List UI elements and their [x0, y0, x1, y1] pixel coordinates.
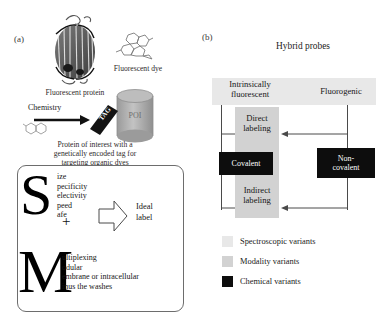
covalent-box: Covalent	[219, 152, 273, 175]
legend-swatch-chemical	[222, 276, 233, 287]
panel-a-label: (a)	[14, 34, 24, 44]
acronym-m-item-0: ultiplexing	[62, 253, 139, 263]
non-covalent-line-2: covalent	[332, 163, 359, 172]
intrinsically-fluorescent-label: Intrinsically fluorescent	[214, 79, 286, 99]
acronym-s-item-1: pecificity	[57, 182, 87, 192]
ideal-label-line-2: label	[136, 213, 153, 224]
direct-labeling-line-2: labeling	[230, 123, 284, 133]
ideal-label-line-1: Ideal	[136, 202, 153, 213]
poi-caption-line-1: Protein of interest with a	[14, 140, 176, 149]
legend-swatch-modality	[222, 256, 233, 267]
fluorescent-dye-caption: Fluorescent dye	[96, 64, 180, 73]
ideal-label-text: Ideal label	[136, 202, 153, 223]
direct-labeling-line-1: Direct	[230, 113, 284, 123]
non-covalent-label: Non- covalent	[332, 154, 359, 173]
acronym-s-item-2: electivity	[57, 191, 87, 201]
legend-item-spectroscopic: Spectroscopic variants	[222, 236, 316, 247]
legend-item-modality: Modality variants	[222, 256, 299, 267]
non-covalent-box: Non- covalent	[317, 148, 375, 178]
acronym-letter-s: S	[20, 166, 52, 224]
intrinsically-fluorescent-line-1: Intrinsically	[214, 79, 286, 89]
non-covalent-line-1: Non-	[332, 154, 359, 163]
fluorescent-dye-structure-icon	[112, 32, 156, 62]
plus-sign: +	[62, 213, 70, 230]
fluorescent-protein-structure-image	[44, 12, 106, 86]
acronym-m-item-3: inus the washes	[62, 282, 139, 292]
legend-label-chemical: Chemical variants	[240, 277, 301, 286]
indirect-labeling-line-1: Indirect	[228, 185, 286, 195]
chemistry-arrow-icon	[22, 110, 92, 136]
intrinsically-fluorescent-line-2: fluorescent	[214, 89, 286, 99]
acronym-s-item-0: ize	[57, 172, 87, 182]
covalent-label: Covalent	[232, 159, 261, 168]
legend-label-spectroscopic: Spectroscopic variants	[240, 237, 316, 246]
acronym-m-list: ultiplexing odular embrane or intracellu…	[62, 253, 139, 291]
indirect-labeling-line-2: labeling	[228, 195, 286, 205]
indirect-labeling-label: Indirect labeling	[228, 185, 286, 205]
direct-labeling-label: Direct labeling	[230, 113, 284, 133]
acronym-m-item-2: embrane or intracellular	[62, 272, 139, 282]
chemistry-label: Chemistry	[28, 103, 61, 112]
poi-caption-line-2: genetically encoded tag for	[14, 149, 176, 158]
acronym-m-item-1: odular	[62, 263, 139, 273]
legend-item-chemical: Chemical variants	[222, 276, 301, 287]
acronym-s-item-3: peed	[57, 201, 87, 211]
panel-a: (a)	[0, 0, 190, 323]
panel-b: (b) Hybrid probes Intrinsically fluoresc…	[190, 0, 379, 323]
legend-label-modality: Modality variants	[240, 257, 299, 266]
fluorogenic-label: Fluorogenic	[304, 86, 378, 96]
block-arrow-right-icon	[96, 197, 130, 235]
legend-swatch-spectroscopic	[222, 236, 233, 247]
